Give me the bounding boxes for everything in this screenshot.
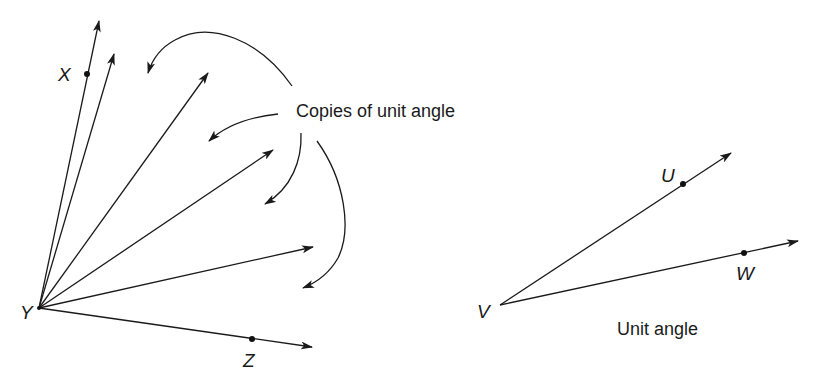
ray-yz (39, 308, 312, 347)
label-y: Y (20, 302, 34, 323)
curved-arrow-2 (209, 114, 278, 141)
ray-vu (500, 153, 731, 305)
point-u (680, 181, 686, 187)
vertex-y (37, 306, 41, 310)
label-x: X (57, 64, 72, 85)
label-u: U (661, 165, 675, 186)
right-figure: U V W Unit angle (477, 153, 798, 339)
left-figure: X Y Z Copies of unit angle (20, 21, 455, 371)
point-x (84, 71, 90, 77)
ray-4 (39, 150, 273, 308)
caption-unit-angle: Unit angle (617, 319, 698, 339)
ray-5 (39, 247, 313, 308)
ray-2 (39, 54, 114, 308)
label-v: V (477, 301, 492, 322)
label-z: Z (242, 350, 256, 371)
label-w: W (736, 263, 756, 284)
caption-copies: Copies of unit angle (296, 101, 455, 121)
curved-arrow-4 (303, 141, 345, 288)
point-z (249, 336, 255, 342)
point-w (741, 250, 747, 256)
curved-arrow-3 (265, 133, 301, 204)
unit-angle-diagram: X Y Z Copies of unit angle U V W Unit an… (0, 0, 822, 380)
ray-3 (39, 73, 208, 308)
curved-arrow-1 (148, 32, 292, 86)
